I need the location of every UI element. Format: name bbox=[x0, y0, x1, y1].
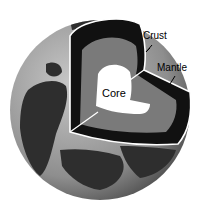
core-label: Core bbox=[102, 88, 126, 99]
earth-cutaway-graphic bbox=[0, 0, 204, 204]
earth-layers-diagram: Crust Mantle Core bbox=[0, 0, 204, 204]
mantle-label: Mantle bbox=[157, 63, 187, 73]
crust-label: Crust bbox=[143, 31, 167, 41]
